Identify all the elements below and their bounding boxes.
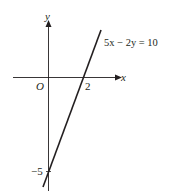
equation-line xyxy=(43,30,101,187)
y-intercept-label: −5 xyxy=(31,165,43,177)
x-axis-label: x xyxy=(120,71,126,83)
origin-label: O xyxy=(36,80,44,92)
equation-label: 5x − 2y = 10 xyxy=(104,37,158,48)
y-axis-label: y xyxy=(44,10,50,22)
graph-canvas: y x O 2 −5 5x − 2y = 10 xyxy=(0,0,172,195)
x-intercept-label: 2 xyxy=(85,80,91,92)
